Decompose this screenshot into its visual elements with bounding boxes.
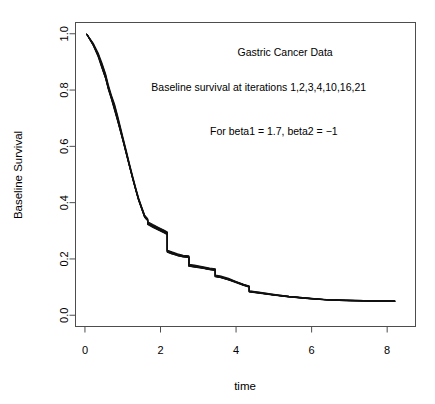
survival-plot: 0.00.20.40.60.81.0 02468 Gastric Cancer …	[0, 0, 435, 404]
plot-canvas: 0.00.20.40.60.81.0 02468 Gastric Cancer …	[0, 0, 435, 404]
y-tick-label: 0.4	[59, 195, 71, 210]
x-tick-label: 2	[157, 344, 163, 356]
x-axis-title: time	[234, 380, 256, 392]
x-tick-label: 8	[384, 344, 390, 356]
x-tick-label: 6	[309, 344, 315, 356]
x-tick-label: 4	[233, 344, 239, 356]
y-tick-label: 0.8	[59, 82, 71, 97]
y-tick-label: 1.0	[59, 26, 71, 41]
plot-annotation-text: Gastric Cancer Data	[238, 46, 333, 58]
plot-annotation-text: Baseline survival at iterations 1,2,3,4,…	[151, 81, 366, 93]
x-tick-label: 0	[82, 344, 88, 356]
y-tick-label: 0.6	[59, 139, 71, 154]
y-tick-label: 0.0	[59, 308, 71, 323]
y-axis-title: Baseline Survival	[12, 131, 24, 219]
y-tick-label: 0.2	[59, 251, 71, 266]
plot-annotation-text: For beta1 = 1.7, beta2 = −1	[210, 125, 338, 137]
